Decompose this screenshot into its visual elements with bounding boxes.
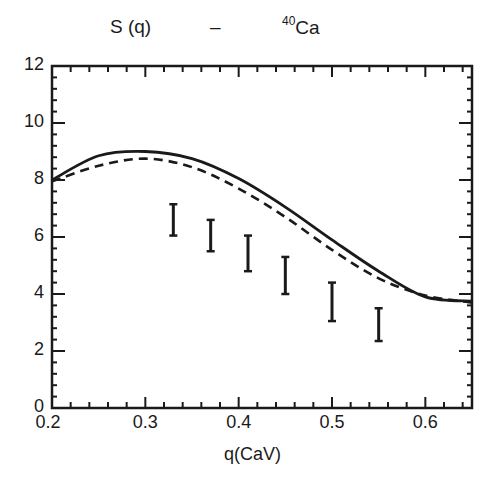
y-tick-label: 6: [14, 225, 44, 246]
chart: S (q) – 40Ca 024681012 0.20.30.40.50.6 q…: [0, 0, 493, 485]
plot-frame: [52, 66, 472, 408]
x-tick-label: 0.2: [28, 412, 68, 433]
x-tick-label: 0.3: [125, 412, 165, 433]
y-tick-label: 12: [14, 54, 44, 75]
y-tick-label: 10: [14, 111, 44, 132]
x-tick-label: 0.4: [219, 412, 259, 433]
y-tick-label: 4: [14, 282, 44, 303]
dashed-curve: [52, 159, 472, 303]
x-axis-title: q(CaV): [224, 444, 281, 465]
solid-curve: [52, 151, 472, 301]
x-tick-label: 0.5: [312, 412, 352, 433]
y-tick-label: 2: [14, 339, 44, 360]
y-tick-label: 8: [14, 168, 44, 189]
x-tick-label: 0.6: [405, 412, 445, 433]
